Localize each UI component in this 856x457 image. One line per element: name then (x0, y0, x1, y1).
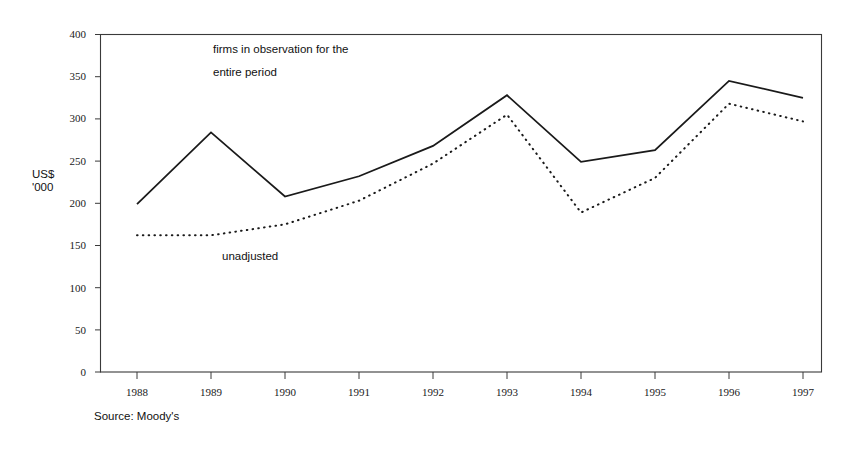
source-note: Source: Moody's (94, 410, 179, 422)
annotation-series-unadjusted: unadjusted (222, 249, 278, 263)
series-line-adjusted (137, 81, 803, 204)
axis-frame (101, 35, 822, 373)
plot-area (0, 0, 856, 457)
plot-border (101, 35, 822, 373)
chart-figure: US$ '000 400 350 300 250 200 150 100 50 … (0, 0, 856, 457)
series-line-unadjusted (137, 104, 803, 236)
annotation-series-adjusted: firms in observation for the entire peri… (213, 38, 349, 84)
x-tick-marks (137, 372, 803, 379)
